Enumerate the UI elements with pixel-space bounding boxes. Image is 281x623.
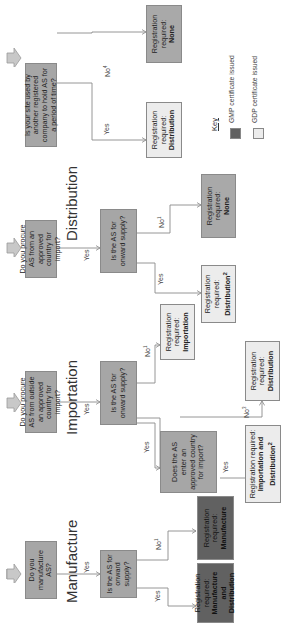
question-import-onward: Is the AS for onward supply? <box>100 361 137 425</box>
edge-label-no: No1 <box>157 217 165 228</box>
result-site-distribution: Registration required:Distribution <box>146 102 182 158</box>
edge-label-yes: Yes <box>83 250 90 261</box>
key-label-gdp: GDP certificate issued <box>251 56 259 123</box>
edge-label-yes: Yes <box>143 442 150 453</box>
question-site-used: Is your site used by another registered … <box>25 63 57 147</box>
section-title-distribution: Distribution <box>63 166 80 241</box>
result-manufacture-and-distribution: Registration required:Manufacture and Di… <box>197 563 234 623</box>
question-distribution-onward: Is the AS for onward supply? <box>100 209 137 273</box>
entry-arrow-icon <box>6 563 22 583</box>
edge-label-no: No4 <box>103 66 111 77</box>
edge-label-yes: Yes <box>154 591 161 602</box>
edge-label-yes: Yes <box>103 124 110 135</box>
section-title-importation: Importation <box>63 360 80 435</box>
result-distribution-none: Registration required:None <box>201 174 236 238</box>
key-label-gmp: GMP certificate issued <box>228 55 236 123</box>
key-title: Key <box>210 118 219 131</box>
edge-label-no: No1 <box>154 539 162 550</box>
question-manufacture-onward: Is the AS for onward supply? <box>100 550 137 598</box>
edge-label-no: No3 <box>242 407 250 418</box>
key-swatch-gdp <box>253 128 264 139</box>
section-title-manufacture: Manufacture <box>63 520 80 603</box>
entry-arrow-icon <box>6 47 22 67</box>
question-manufacture: Do you manufacture AS? <box>25 541 57 599</box>
edge-label-no: No1 <box>143 346 151 357</box>
result-importation: Registration required:Importation <box>160 304 195 360</box>
edge-label-yes: Yes <box>83 404 90 415</box>
edge-label-yes: Yes <box>83 562 90 573</box>
result-importation-and-distribution: Registration required:Importation and Di… <box>245 425 281 503</box>
question-import-enter-approved: Does the AS enter an approved country fo… <box>160 431 217 493</box>
question-import: Do you procure AS from outside an approv… <box>25 371 57 433</box>
result-importation-distribution: Registration required:Distribution <box>245 341 280 401</box>
result-distribution: Registration required:Distribution2 <box>201 265 236 323</box>
result-site-none: Registration required:None <box>146 5 182 63</box>
edge-label-yes: Yes <box>157 274 164 285</box>
result-manufacture: Registration required:Manufacture <box>197 496 234 560</box>
flowchart: Do you manufacture AS? Manufacture Yes I… <box>0 0 281 623</box>
question-distribution: Do you procure AS from an approved count… <box>25 220 57 278</box>
key-swatch-gmp <box>230 128 241 139</box>
edge-label-yes: Yes <box>222 462 229 473</box>
